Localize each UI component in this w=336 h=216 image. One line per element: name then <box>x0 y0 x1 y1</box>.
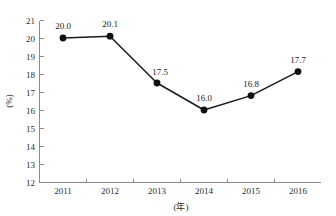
y-axis-tick-labels: 21 20 19 18 17 16 15 14 13 12 <box>26 16 36 188</box>
data-point-labels: 20.0 20.1 17.5 16.0 16.8 17.7 <box>55 19 306 103</box>
data-label-2013: 17.5 <box>152 67 168 77</box>
y-tick-label-12: 12 <box>26 178 35 188</box>
series-line-0 <box>63 36 298 110</box>
y-tick-label-20: 20 <box>26 34 36 44</box>
line-chart: 21 20 19 18 17 16 15 14 13 12 (%) 2011 2… <box>0 0 336 216</box>
x-axis-tick-labels: 2011 2012 2013 2014 2015 2016 <box>54 186 307 196</box>
data-point-2014 <box>201 107 208 114</box>
y-tick-label-18: 18 <box>26 70 36 80</box>
data-label-2015: 16.8 <box>243 79 259 89</box>
y-axis-ticks <box>40 21 44 165</box>
y-tick-label-13: 13 <box>26 160 36 170</box>
x-tick-label-2013: 2013 <box>148 186 167 196</box>
data-point-2011 <box>60 35 67 42</box>
x-tick-label-2012: 2012 <box>101 186 119 196</box>
data-point-2016 <box>295 68 302 75</box>
y-tick-label-19: 19 <box>26 52 36 62</box>
chart-plot-area: 21 20 19 18 17 16 15 14 13 12 (%) 2011 2… <box>0 0 336 216</box>
y-axis-label: (%) <box>4 94 14 108</box>
x-tick-label-2011: 2011 <box>54 186 72 196</box>
x-axis-label: (年) <box>174 201 189 212</box>
y-tick-label-21: 21 <box>26 16 35 26</box>
x-tick-label-2016: 2016 <box>289 186 308 196</box>
data-label-2012: 20.1 <box>102 19 118 29</box>
data-label-2011: 20.0 <box>55 21 71 31</box>
x-axis-ticks <box>87 179 275 183</box>
data-label-2016: 17.7 <box>290 55 306 65</box>
data-point-2013 <box>154 80 161 87</box>
x-tick-label-2014: 2014 <box>195 186 214 196</box>
data-point-2015 <box>248 92 255 99</box>
y-tick-label-16: 16 <box>26 106 36 116</box>
data-point-2012 <box>107 33 114 40</box>
y-tick-label-17: 17 <box>26 88 36 98</box>
y-tick-label-14: 14 <box>26 142 36 152</box>
series-markers <box>60 33 302 114</box>
y-tick-label-15: 15 <box>26 124 36 134</box>
x-tick-label-2015: 2015 <box>242 186 261 196</box>
data-label-2014: 16.0 <box>196 93 212 103</box>
